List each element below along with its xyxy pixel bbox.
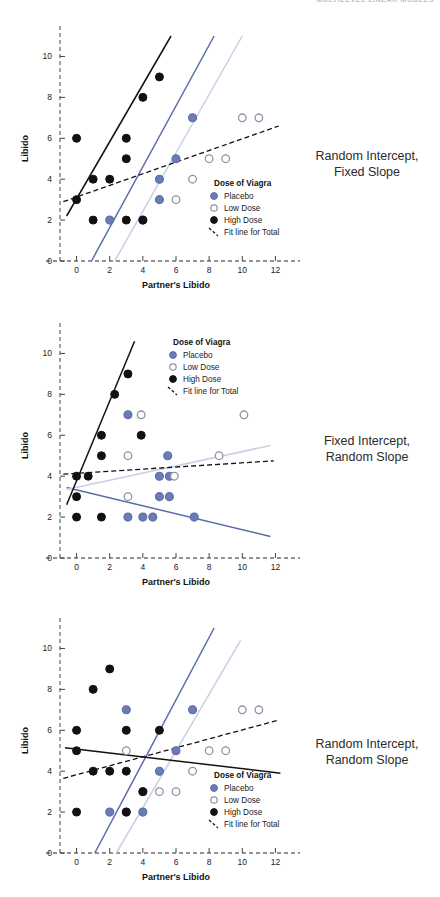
legend-item[interactable]: Placebo [211, 192, 254, 201]
chart-panel-fixed-intercept-random-slope: 0246810120246810Partner's LibidoLibidoDo… [0, 305, 440, 604]
y-tick-label: 10 [43, 348, 53, 358]
data-point-high-dose [124, 370, 132, 378]
data-point-high-dose [89, 685, 97, 693]
data-point-placebo [122, 706, 130, 714]
data-point-high-dose [73, 513, 81, 521]
tick-group: 0246810120246810 [43, 348, 281, 572]
y-tick-label: 8 [47, 92, 52, 102]
y-axis-title: Libido [20, 135, 30, 162]
legend-item[interactable]: Placebo [170, 351, 213, 360]
data-point-low-dose [222, 747, 230, 755]
fit-lines-group [63, 341, 273, 536]
data-point-high-dose [122, 726, 130, 734]
chart-panel-random-intercept-fixed-slope: 0246810120246810Partner's LibidoLibidoDo… [0, 8, 440, 307]
data-point-placebo [139, 808, 147, 816]
data-point-high-dose [89, 175, 97, 183]
plot-area-2[interactable]: 0246810120246810Partner's LibidoLibidoDo… [14, 315, 304, 600]
scatter-plot-1[interactable]: 0246810120246810Partner's LibidoLibidoDo… [14, 18, 304, 303]
filled-black-circle-icon [170, 376, 177, 383]
data-point-low-dose [205, 747, 213, 755]
y-tick-label: 6 [47, 725, 52, 735]
chart-panel-random-intercept-random-slope: 0246810120246810Partner's LibidoLibidoDo… [0, 600, 440, 897]
y-tick-label: 10 [43, 51, 53, 61]
dashed-line-icon [168, 387, 177, 395]
legend-item-label: Fit line for Total [183, 387, 239, 396]
filled-blue-circle-icon [211, 785, 218, 792]
legend-item-label: High Dose [183, 375, 222, 384]
caption-line-2: Random Slope [302, 752, 432, 768]
data-point-placebo [190, 513, 198, 521]
y-tick-label: 0 [47, 848, 52, 858]
data-point-low-dose [189, 767, 197, 775]
data-point-placebo [155, 472, 163, 480]
caption-line-2: Fixed Slope [302, 164, 432, 180]
data-point-low-dose [172, 196, 180, 204]
data-point-high-dose [122, 216, 130, 224]
legend-item[interactable]: Fit line for Total [168, 387, 239, 396]
legend-item-label: High Dose [224, 216, 263, 225]
data-point-high-dose [111, 390, 119, 398]
data-point-placebo [149, 513, 157, 521]
data-point-low-dose [189, 175, 197, 183]
y-tick-label: 0 [47, 553, 52, 563]
data-point-low-dose [124, 493, 132, 501]
y-tick-label: 6 [47, 430, 52, 440]
legend-item[interactable]: Fit line for Total [209, 228, 280, 237]
y-tick-label: 4 [47, 174, 52, 184]
legend-item[interactable]: Fit line for Total [209, 820, 280, 829]
legend-item[interactable]: High Dose [211, 216, 263, 225]
caption-line-1: Random Intercept, [316, 737, 419, 751]
data-point-placebo [189, 114, 197, 122]
data-point-high-dose [137, 431, 145, 439]
x-tick-label: 12 [271, 857, 281, 867]
data-point-low-dose [171, 472, 179, 480]
data-point-high-dose [73, 808, 81, 816]
data-point-high-dose [155, 73, 163, 81]
panel-caption-1: Random Intercept, Fixed Slope [302, 148, 432, 180]
data-points-group [73, 73, 263, 224]
legend-item[interactable]: Placebo [211, 784, 254, 793]
y-tick-label: 0 [47, 256, 52, 266]
x-tick-label: 8 [207, 857, 212, 867]
legend-title: Dose of Viagra [173, 338, 231, 347]
y-tick-label: 2 [47, 807, 52, 817]
data-point-placebo [172, 747, 180, 755]
data-point-low-dose [156, 788, 164, 796]
data-point-high-dose [122, 134, 130, 142]
legend-item-label: High Dose [224, 808, 263, 817]
plot-area-3[interactable]: 0246810120246810Partner's LibidoLibidoDo… [14, 610, 304, 895]
scatter-plot-3[interactable]: 0246810120246810Partner's LibidoLibidoDo… [14, 610, 304, 895]
filled-black-circle-icon [211, 809, 218, 816]
data-point-low-dose [205, 155, 213, 163]
legend-item[interactable]: High Dose [170, 375, 222, 384]
x-tick-label: 2 [107, 562, 112, 572]
x-tick-label: 0 [74, 857, 79, 867]
open-circle-icon [211, 205, 217, 211]
legend-item[interactable]: Low Dose [211, 796, 261, 805]
legend-item[interactable]: Low Dose [211, 204, 261, 213]
dashed-line-icon [209, 820, 218, 828]
y-tick-label: 4 [47, 471, 52, 481]
x-tick-label: 4 [140, 857, 145, 867]
data-point-low-dose [240, 411, 248, 419]
data-point-placebo [106, 808, 114, 816]
data-point-high-dose [73, 747, 81, 755]
running-head: MULTILEVEL LINEAR MODELS [316, 0, 434, 3]
y-tick-label: 8 [47, 684, 52, 694]
data-point-placebo [172, 155, 180, 163]
data-point-low-dose [215, 452, 223, 460]
x-axis-title: Partner's Libido [142, 872, 211, 882]
legend-item-label: Fit line for Total [224, 228, 280, 237]
legend-item-label: Low Dose [224, 796, 261, 805]
data-point-low-dose [222, 155, 230, 163]
legend-item[interactable]: High Dose [211, 808, 263, 817]
scatter-plot-2[interactable]: 0246810120246810Partner's LibidoLibidoDo… [14, 315, 304, 600]
panel-caption-3: Random Intercept, Random Slope [302, 736, 432, 768]
data-point-high-dose [155, 726, 163, 734]
caption-line-1: Random Intercept, [316, 149, 419, 163]
x-tick-label: 2 [107, 857, 112, 867]
plot-area-1[interactable]: 0246810120246810Partner's LibidoLibidoDo… [14, 18, 304, 303]
x-tick-label: 10 [238, 562, 248, 572]
legend-item[interactable]: Low Dose [170, 363, 220, 372]
data-point-placebo [124, 411, 132, 419]
